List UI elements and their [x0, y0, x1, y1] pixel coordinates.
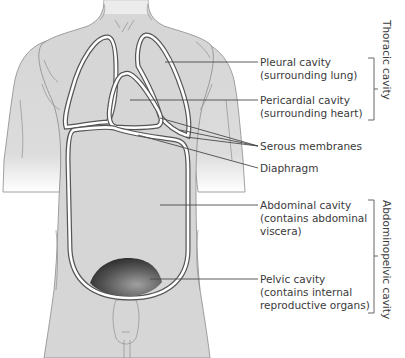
diagram-canvas: Pleural cavity (surrounding lung) Perica… — [0, 0, 405, 358]
label-pleural: Pleural cavity (surrounding lung) — [260, 56, 357, 81]
bracket-thoracic — [368, 58, 378, 120]
body-cavities-diagram: Pleural cavity (surrounding lung) Perica… — [0, 0, 405, 358]
label-pelvic: Pelvic cavity (contains internal reprodu… — [260, 273, 370, 311]
labels: Pleural cavity (surrounding lung) Perica… — [260, 56, 371, 311]
label-pericardial: Pericardial cavity (surrounding heart) — [260, 94, 363, 119]
label-diaphragm: Diaphragm — [260, 162, 318, 174]
label-serous: Serous membranes — [260, 140, 362, 152]
body-silhouette — [3, 0, 245, 358]
label-abdominal: Abdominal cavity (contains abdominal vis… — [260, 199, 371, 237]
label-thoracic-cavity: Thoracic cavity — [381, 19, 393, 100]
neck-highlight — [104, 0, 148, 14]
label-abdominopelvic-cavity: Abdominopelvic cavity — [381, 200, 393, 319]
group-brackets: Thoracic cavity Abdominopelvic cavity — [368, 19, 393, 319]
